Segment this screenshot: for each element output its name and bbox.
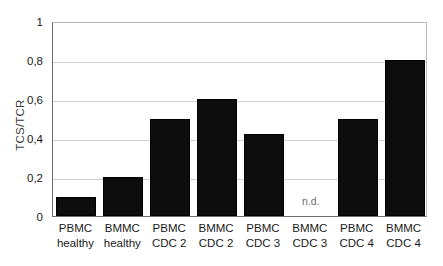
x-axis-tick-label-line1: BMMC [292, 222, 327, 234]
x-axis-tick-label: PBMCCDC 4 [333, 221, 380, 251]
x-axis-tick-label-line1: BMMC [386, 222, 421, 234]
y-axis-tick-label: 0,6 [27, 94, 43, 107]
x-axis-tick-label-line2: CDC 4 [380, 236, 427, 251]
x-axis-tick-label-line1: PBMC [153, 222, 186, 234]
not-determined-annotation: n.d. [287, 195, 334, 207]
x-axis-tick-label-line2: CDC 3 [286, 236, 333, 251]
bar-slot [197, 21, 237, 216]
x-axis-tick-label-line2: CDC 2 [193, 236, 240, 251]
bar-chart: TCS/TCR 10,80,60,40,20 n.d. PBMChealthyB… [0, 0, 443, 266]
bar-slot [244, 21, 284, 216]
bar-slot [291, 21, 331, 216]
x-axis-tick-label: BMMCCDC 2 [193, 221, 240, 251]
bar[interactable] [338, 119, 378, 217]
bar-slot [385, 21, 425, 216]
x-axis-tick-label: BMMCCDC 3 [286, 221, 333, 251]
x-axis-tick-label: BMMChealthy [99, 221, 146, 251]
x-axis-tick-label: PBMChealthy [52, 221, 99, 251]
bar[interactable] [56, 197, 96, 217]
x-axis-tick-label-line1: PBMC [246, 222, 279, 234]
x-axis-tick-label: PBMCCDC 3 [240, 221, 287, 251]
bar[interactable] [103, 177, 143, 216]
x-axis-tick-label-line2: healthy [52, 236, 99, 251]
x-axis-tick-label-line2: healthy [99, 236, 146, 251]
bars-layer: n.d. [53, 23, 426, 216]
bar[interactable] [197, 99, 237, 216]
x-axis-tick-label-line2: CDC 4 [333, 236, 380, 251]
x-axis-tick-label-line1: PBMC [59, 222, 92, 234]
bar-slot [103, 21, 143, 216]
bar[interactable] [244, 134, 284, 216]
bar-slot [150, 21, 190, 216]
x-axis-tick-labels: PBMChealthyBMMChealthyPBMCCDC 2BMMCCDC 2… [52, 221, 427, 263]
bar-slot [56, 21, 96, 216]
x-axis-tick-label-line1: BMMC [105, 222, 140, 234]
x-axis-tick-label-line1: PBMC [340, 222, 373, 234]
y-axis-tick-label: 0,2 [27, 172, 43, 185]
y-axis-tick-labels: 10,80,60,40,20 [0, 22, 48, 217]
bar-slot [338, 21, 378, 216]
x-axis-tick-label-line2: CDC 3 [240, 236, 287, 251]
y-axis-tick-label: 0,4 [27, 133, 43, 146]
y-axis-tick-label: 0,8 [27, 55, 43, 68]
x-axis-tick-label-line2: CDC 2 [146, 236, 193, 251]
x-axis-tick-label: PBMCCDC 2 [146, 221, 193, 251]
bar[interactable] [385, 60, 425, 216]
y-axis-tick-label: 1 [37, 16, 43, 29]
x-axis-tick-label: BMMCCDC 4 [380, 221, 427, 251]
x-axis-tick-label-line1: BMMC [198, 222, 233, 234]
plot-area: n.d. [52, 22, 427, 217]
y-axis-tick-label: 0 [37, 211, 43, 224]
bar[interactable] [150, 119, 190, 217]
